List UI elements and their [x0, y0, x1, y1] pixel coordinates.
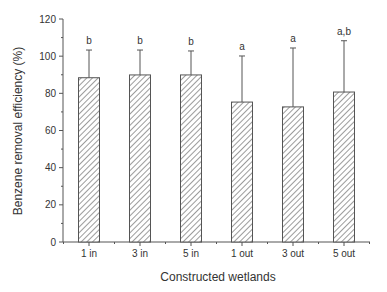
bar-chart: 020406080100120 1 in3 in5 in1 out3 out5 … [0, 0, 387, 292]
bar [334, 92, 355, 242]
y-tick-label: 0 [50, 237, 56, 248]
x-axis: 1 in3 in5 in1 out3 out5 out [63, 242, 370, 259]
significance-label: a [290, 33, 296, 44]
bar [181, 75, 202, 242]
x-tick-label: 3 out [282, 248, 304, 259]
y-axis-title: Benzene removal efficiency (%) [11, 47, 25, 216]
significance-label: b [86, 35, 92, 46]
significance-label: b [137, 35, 143, 46]
bar [283, 107, 304, 242]
bar [79, 78, 100, 242]
y-tick-label: 80 [45, 88, 57, 99]
x-tick-label: 1 out [231, 248, 253, 259]
x-tick-label: 5 in [183, 248, 199, 259]
x-tick-label: 5 out [333, 248, 355, 259]
x-tick-label: 3 in [132, 248, 148, 259]
significance-label: a [239, 41, 245, 52]
bars-group: bbbaaa,b [79, 26, 355, 242]
y-axis: 020406080100120 [39, 14, 63, 248]
significance-label: b [188, 36, 194, 47]
y-tick-label: 120 [39, 14, 56, 25]
y-tick-label: 100 [39, 51, 56, 62]
y-tick-label: 40 [45, 162, 57, 173]
significance-label: a,b [337, 26, 351, 37]
bar [232, 102, 253, 242]
y-tick-label: 60 [45, 125, 57, 136]
x-axis-title: Constructed wetlands [160, 270, 275, 284]
bar [130, 75, 151, 242]
y-tick-label: 20 [45, 199, 57, 210]
x-tick-label: 1 in [81, 248, 97, 259]
